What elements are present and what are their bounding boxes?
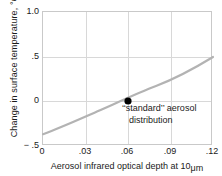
y-tick-label-2: .5 bbox=[5, 52, 39, 61]
chart-figure: Change in surface temperature, °C 1.0 .5… bbox=[0, 0, 222, 176]
standard-aerosol-annotation: ‘‘standard’’ aerosol distribution bbox=[122, 103, 196, 126]
x-axis-title: Aerosol infrared optical depth at 10μm bbox=[42, 161, 212, 171]
x-tick-label-1: 0 bbox=[25, 147, 59, 156]
x-axis-title-text: Aerosol infrared optical depth at 10 bbox=[51, 161, 191, 171]
y-tick-label-1: 1.0 bbox=[5, 7, 39, 16]
x-tick-label-2: .03 bbox=[68, 147, 102, 156]
annotation-line-1: ‘‘standard’’ aerosol bbox=[122, 103, 196, 113]
x-axis-title-unit: μm bbox=[190, 163, 203, 173]
annotation-line-2: distribution bbox=[122, 115, 196, 127]
y-axis-title: Change in surface temperature, °C bbox=[9, 0, 23, 139]
x-tick-label-4: .09 bbox=[153, 147, 187, 156]
x-tick-label-5: .12 bbox=[195, 147, 222, 156]
x-tick-label-3: .06 bbox=[110, 147, 144, 156]
y-tick-label-3: 0 bbox=[5, 96, 39, 105]
